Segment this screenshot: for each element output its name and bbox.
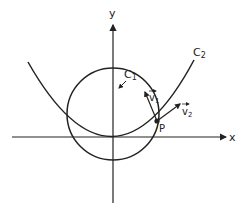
vector-v2-arrow xyxy=(157,104,180,121)
diagram-canvas: x y C1 C2 P v1 v2 xyxy=(0,0,240,211)
parabola-c2 xyxy=(28,60,194,137)
point-p-label: P xyxy=(159,123,165,134)
c1-label: C1 xyxy=(124,68,137,82)
vector-v1-label: v1 xyxy=(149,92,159,105)
c1-pointer-arrow xyxy=(119,81,126,88)
vector-v2-label: v2 xyxy=(182,106,192,119)
y-axis-label: y xyxy=(109,7,116,20)
x-axis-label: x xyxy=(229,131,236,144)
c2-label: C2 xyxy=(193,46,206,60)
